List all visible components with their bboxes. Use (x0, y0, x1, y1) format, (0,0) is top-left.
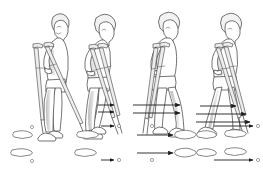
footprint-near (75, 149, 97, 157)
footprint-near-front (225, 148, 247, 156)
crutch-axillary-pad-near (160, 42, 170, 47)
crutch-tip-mark-far (150, 124, 153, 127)
crutch-tip-mark-far (117, 124, 120, 127)
footprint-near (175, 148, 197, 157)
crutch-tip-mark-far (30, 125, 33, 128)
illustration-canvas (0, 0, 263, 181)
crutch-tip-mark-far (256, 124, 259, 127)
hand-on-grip (214, 70, 222, 75)
footprint-far (77, 131, 99, 139)
footprint-far (175, 130, 197, 139)
hand-on-grip (87, 71, 95, 76)
crutch-tip-mark-near (256, 158, 259, 161)
crutch-axillary-pad-far (33, 43, 43, 48)
crutch-axillary-pad-near (223, 42, 233, 47)
footprint-near (11, 149, 33, 157)
footprint-near-rear (197, 149, 217, 157)
crutch-axillary-pad-near (98, 43, 108, 48)
crutch-axillary-pad-far (89, 44, 99, 49)
footprint-far-rear (197, 131, 217, 139)
crutch-axillary-pad-near (44, 42, 54, 47)
crutch-tip-mark-near (117, 158, 120, 161)
footprint-far (13, 131, 33, 139)
crutch-tip-mark-near (30, 159, 33, 162)
crutch-tip-mark-near (150, 158, 153, 161)
crutch-gait-illustration: Three-point crutch gait sequence (0, 0, 263, 181)
footprint-far-front (225, 130, 247, 138)
